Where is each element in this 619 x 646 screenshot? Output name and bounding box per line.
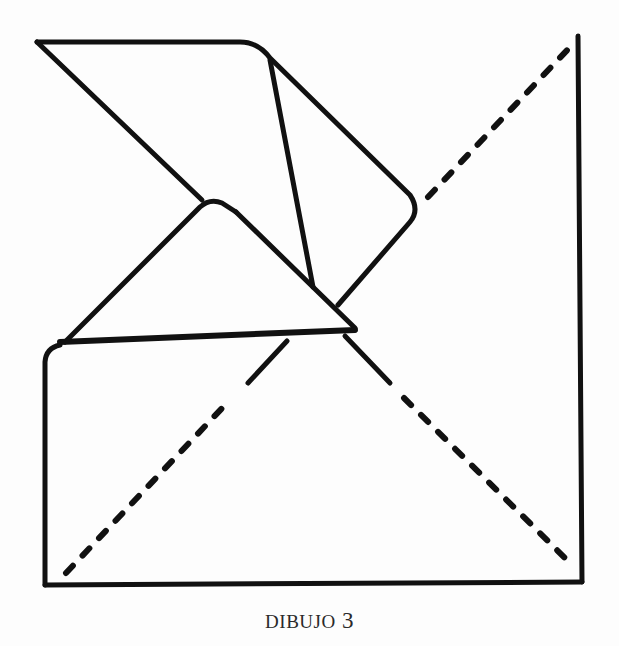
fold-line-bottom-left bbox=[66, 404, 226, 573]
fold-line-bottom-right bbox=[404, 398, 572, 565]
upper-flap-top-edge bbox=[37, 42, 415, 305]
square-left-edge bbox=[45, 345, 60, 585]
upper-flap-left-diagonal bbox=[37, 42, 202, 200]
triangle-edge-extension bbox=[345, 336, 390, 383]
figure-caption: DIBUJO 3 bbox=[0, 608, 619, 634]
fold-line-top-right bbox=[428, 45, 572, 197]
diagonal-solid-segment bbox=[248, 341, 287, 383]
triangle-flap-right-edge bbox=[236, 212, 355, 328]
triangle-flap-left-edge bbox=[65, 201, 236, 342]
triangle-flap-base bbox=[60, 330, 355, 342]
origami-diagram bbox=[0, 0, 619, 646]
square-right-edge bbox=[578, 36, 582, 582]
square-bottom-edge bbox=[45, 582, 582, 585]
caption-number: 3 bbox=[342, 608, 354, 633]
caption-word: DIBUJO bbox=[265, 611, 336, 632]
